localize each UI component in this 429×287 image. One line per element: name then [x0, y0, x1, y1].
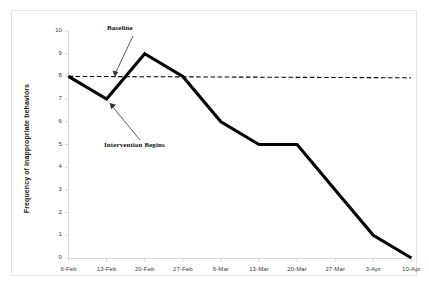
- y-tick-label: 1: [48, 231, 62, 237]
- y-tick-label: 2: [48, 209, 62, 215]
- baseline-annotation-label: Baseline: [107, 24, 133, 32]
- y-tick-label: 9: [48, 50, 62, 56]
- baseline-reference-line: [69, 76, 412, 77]
- data-series-line: [69, 54, 412, 258]
- chart-container: Frequency of inappropriate behaviors 10 …: [0, 0, 429, 287]
- y-tick-label: 6: [48, 118, 62, 124]
- intervention-annotation-label: Intervention Begins: [104, 141, 165, 149]
- y-tick-label: 4: [48, 163, 62, 169]
- intervention-annotation-arrow: [110, 103, 141, 140]
- y-tick-label: 0: [48, 254, 62, 260]
- y-axis-title: Frequency of inappropriate behaviors: [23, 64, 30, 234]
- y-tick-label: 7: [48, 95, 62, 101]
- y-tick-label: 5: [48, 141, 62, 147]
- y-tick-label: 10: [48, 27, 62, 33]
- y-tick-label: 8: [48, 72, 62, 78]
- x-tick-label: 10-Apr: [389, 266, 429, 272]
- chart-plot-area: [0, 0, 429, 287]
- y-tick-label: 3: [48, 186, 62, 192]
